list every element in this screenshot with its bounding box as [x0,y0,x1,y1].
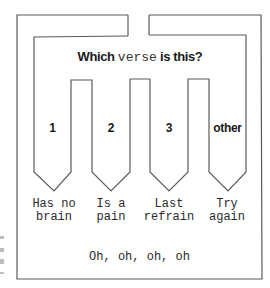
diagram-footer: Oh, oh, oh, oh [17,250,262,264]
branch-choice-1: 1 [34,121,71,135]
cropped-text-fragment [0,259,4,264]
title-prefix: Which [78,49,118,64]
branch-choice-2: 2 [92,121,130,135]
branch-choice-3: 3 [150,121,188,135]
cropped-text-fragment [0,272,4,274]
branch-result-other: Try again [192,198,262,224]
diagram-title: Which verse is this? [34,49,246,65]
result-line: again [192,211,262,224]
cropped-text-fragment [0,236,4,239]
cropped-text-fragment [0,248,4,252]
title-code-word: verse [118,50,157,65]
title-suffix: is this? [157,49,203,64]
flow-diagram: Which verse is this? 1 2 3 other Has no … [0,0,270,288]
diagram-outline [0,0,270,288]
branch-choice-other: other [209,121,246,135]
